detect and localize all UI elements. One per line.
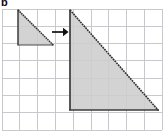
figure-panel: b — [0, 0, 167, 133]
geometry-diagram — [0, 0, 167, 133]
panel-label: b — [1, 0, 8, 7]
